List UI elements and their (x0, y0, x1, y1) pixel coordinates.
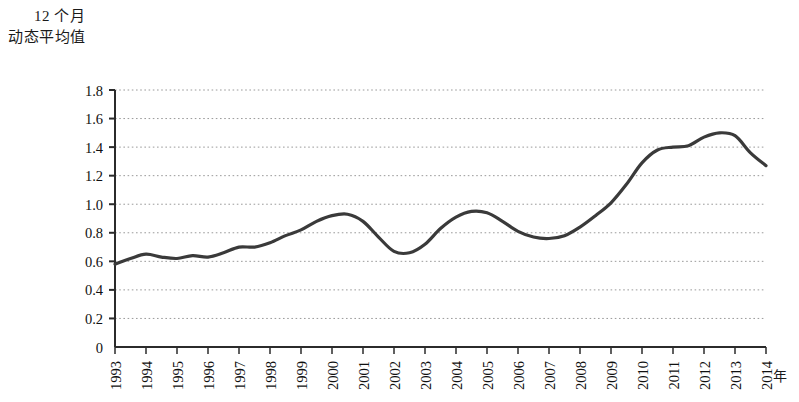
x-axis-tick-label: 2012 (697, 361, 713, 390)
x-axis-tick-label: 1999 (294, 361, 310, 390)
data-series-line (115, 133, 766, 264)
y-axis-tick-label: 1.6 (85, 111, 103, 127)
x-axis-tick-label: 2005 (480, 361, 496, 390)
x-axis-tick-label: 2000 (325, 361, 341, 390)
y-axis-tick-label: 1.2 (85, 168, 103, 184)
x-axis-tick-label: 1994 (139, 360, 155, 390)
x-axis-tick-label: 2004 (449, 360, 465, 390)
chart-container: 12 个月 动态平均值 年 00.20.40.60.81.01.21.41.61… (0, 0, 799, 402)
x-axis-tick-label: 2011 (666, 361, 682, 389)
y-axis-tick-label: 0.8 (85, 225, 103, 241)
line-chart-plot: 00.20.40.60.81.01.21.41.61.8199319941995… (0, 0, 799, 402)
x-axis-tick-label: 2001 (356, 361, 372, 390)
x-axis-tick-label: 1996 (201, 361, 217, 390)
x-axis-tick-label: 2010 (635, 361, 651, 390)
x-axis-tick-label: 1998 (263, 361, 279, 390)
y-axis-tick-label: 0.2 (85, 311, 103, 327)
x-axis-tick-label: 1993 (108, 361, 124, 390)
x-axis-tick-label: 2013 (728, 361, 744, 390)
y-axis-tick-label: 1.0 (85, 197, 103, 213)
x-axis-tick-label: 2003 (418, 361, 434, 390)
x-axis-tick-label: 2006 (511, 361, 527, 390)
x-axis-tick-label: 1997 (232, 361, 248, 390)
y-axis-tick-label: 1.8 (85, 83, 103, 99)
y-axis-tick-label: 0.4 (85, 282, 104, 298)
x-axis-tick-label: 2002 (387, 361, 403, 390)
x-axis-tick-label: 2014 (759, 360, 775, 390)
x-axis-tick-label: 1995 (170, 361, 186, 390)
y-axis-tick-label: 0.6 (85, 254, 103, 270)
y-axis-tick-label: 0 (96, 340, 103, 356)
x-axis-tick-label: 2008 (573, 361, 589, 390)
x-axis-tick-label: 2009 (604, 361, 620, 390)
y-axis-tick-label: 1.4 (85, 140, 104, 156)
x-axis-tick-label: 2007 (542, 361, 558, 390)
